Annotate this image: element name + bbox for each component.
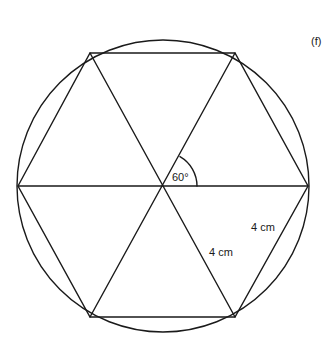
side-label-outer: 4 cm [251, 221, 275, 233]
angle-label: 60° [172, 171, 189, 183]
figure-label: (f) [311, 35, 321, 47]
hexagon-diagram: 60° 4 cm 4 cm (f) [0, 0, 332, 362]
side-label-inner: 4 cm [209, 246, 233, 258]
